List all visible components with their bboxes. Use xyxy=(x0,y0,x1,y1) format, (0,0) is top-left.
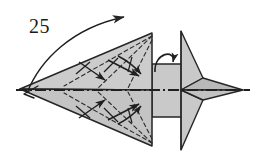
step-number-label: 25 xyxy=(29,15,50,37)
main-triangle-lower-half xyxy=(20,89,152,146)
origami-diagram-svg: 25 xyxy=(0,0,257,160)
origami-figure-root: 25 xyxy=(0,0,257,160)
main-triangle-upper-half xyxy=(20,33,152,90)
